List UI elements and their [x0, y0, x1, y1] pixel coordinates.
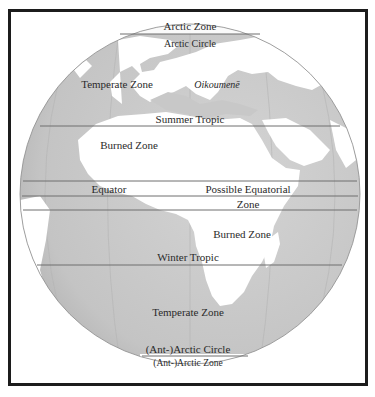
map-figure: Arctic Zone Arctic Circle Temperate Zone…: [0, 0, 375, 397]
map-frame: [8, 9, 368, 386]
